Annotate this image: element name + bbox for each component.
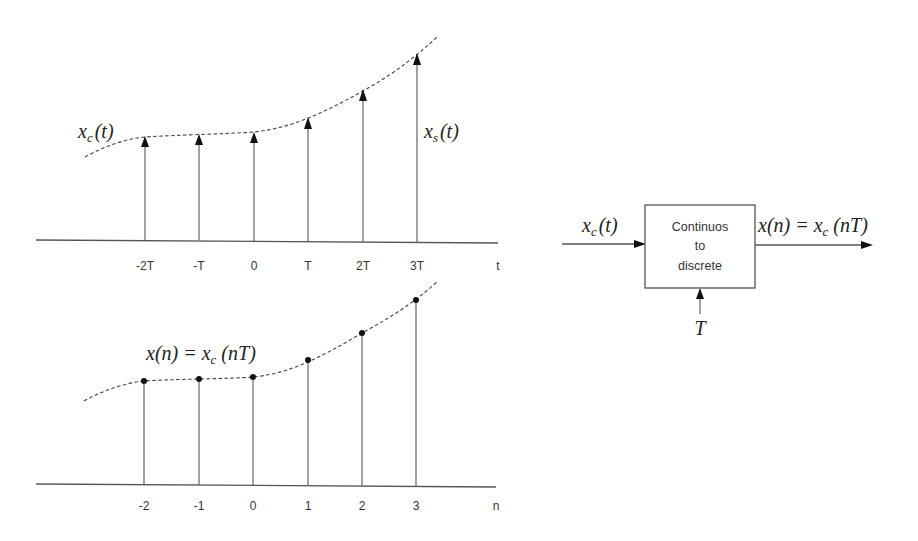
t-axis-label: t bbox=[496, 259, 500, 273]
sample-n-0 bbox=[250, 374, 256, 485]
box-line-3: discrete bbox=[678, 259, 722, 273]
tick-label: 1 bbox=[305, 499, 312, 513]
n-axis-label: n bbox=[493, 499, 500, 513]
box-line-1: Continuos bbox=[672, 220, 728, 234]
impulse-minus-2T bbox=[141, 136, 149, 240]
impulse-3T bbox=[413, 53, 421, 242]
tick-label: 3T bbox=[410, 259, 425, 273]
sequence-envelope-curve bbox=[84, 281, 438, 401]
output-signal-label: x(n) = xc (nT) bbox=[757, 214, 868, 239]
sample-n-3 bbox=[413, 297, 419, 487]
top-plot: xc(t) xs(t) -2T -T 0 T 2T 3T t bbox=[36, 36, 500, 273]
sample-n-minus-1 bbox=[196, 376, 202, 485]
tick-label: 0 bbox=[251, 259, 258, 273]
sample-n-minus-2 bbox=[141, 378, 147, 484]
tick-label: 2 bbox=[359, 499, 366, 513]
box-line-2: to bbox=[695, 239, 705, 253]
impulse-minus-T bbox=[195, 134, 203, 240]
continuous-signal-curve bbox=[85, 36, 438, 157]
sampling-period-arrow bbox=[696, 288, 704, 314]
output-arrow bbox=[755, 241, 873, 249]
sampling-period-label: T bbox=[694, 317, 707, 339]
impulse-T bbox=[304, 117, 312, 241]
input-signal-label: xc(t) bbox=[581, 214, 618, 239]
impulse-2T bbox=[359, 89, 367, 242]
sampling-diagram: xc(t) xs(t) -2T -T 0 T 2T 3T t bbox=[0, 0, 918, 541]
n-axis-ticks: -2 -1 0 1 2 3 n bbox=[139, 499, 500, 513]
continuous-signal-label: xc(t) bbox=[77, 120, 114, 145]
t-axis-ticks: -2T -T 0 T 2T 3T t bbox=[136, 259, 500, 273]
tick-label: 3 bbox=[413, 499, 420, 513]
tick-label: 2T bbox=[356, 259, 371, 273]
impulse-0 bbox=[250, 132, 258, 241]
tick-label: -1 bbox=[194, 499, 205, 513]
sampled-signal-label: xs(t) bbox=[423, 120, 459, 145]
sequence-stems bbox=[141, 297, 419, 487]
c-to-d-block-diagram: xc(t) Continuos to discrete x(n) = xc (n… bbox=[562, 205, 873, 339]
t-axis bbox=[36, 240, 498, 243]
sequence-label: x(n) = xc (nT) bbox=[145, 342, 256, 367]
tick-label: -2T bbox=[136, 259, 155, 273]
sample-n-1 bbox=[305, 357, 311, 486]
bottom-plot: x(n) = xc (nT) -2 -1 0 1 2 3 n bbox=[36, 281, 499, 513]
n-axis bbox=[36, 484, 496, 487]
sample-n-2 bbox=[359, 330, 365, 486]
tick-label: -T bbox=[193, 259, 205, 273]
tick-label: 0 bbox=[250, 499, 257, 513]
input-arrow bbox=[562, 240, 646, 248]
tick-label: -2 bbox=[139, 499, 150, 513]
tick-label: T bbox=[304, 259, 312, 273]
